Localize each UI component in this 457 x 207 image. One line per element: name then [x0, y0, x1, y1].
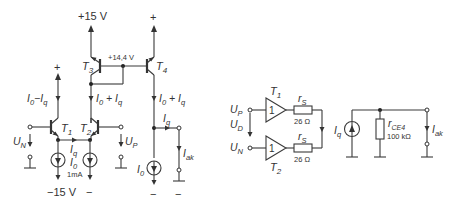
svg-text:100 kΩ: 100 kΩ — [387, 132, 411, 141]
eq-ud-label: UD — [230, 118, 244, 133]
resistor-rs-bottom — [294, 144, 312, 152]
svg-text:T2: T2 — [270, 161, 282, 176]
eq-un-label: UN — [230, 141, 244, 156]
current-i0-plus-iq-label: I0 + Iq — [96, 92, 123, 107]
equivalent-circuit: UP UD UN 1 T1 rS 26 Ω 1 T2 rS 26 Ω — [230, 85, 444, 176]
buffer-t1: 1 T1 — [266, 85, 286, 122]
node-voltage-label: +14,4 V — [108, 53, 134, 62]
t4-supply-plus: + — [150, 11, 156, 23]
un-terminal — [28, 125, 32, 129]
svg-text:rS: rS — [298, 92, 307, 107]
current-iq-out-label: Iq — [163, 112, 171, 127]
resistor-rce4 — [376, 119, 384, 139]
svg-text:26 Ω: 26 Ω — [294, 155, 310, 164]
arrow-up-icon — [88, 25, 94, 32]
current-t4-label: I0 + Iq — [159, 92, 186, 107]
svg-text:−: − — [150, 188, 156, 200]
supply-neg-label: −15 V — [47, 186, 77, 198]
eq-up-label: UP — [230, 103, 243, 118]
svg-text:−: − — [175, 188, 181, 200]
svg-text:T2: T2 — [80, 122, 92, 137]
svg-text:T1: T1 — [61, 122, 72, 137]
transistor-t4: T4 — [147, 57, 168, 75]
current-iak-label: Iak — [183, 147, 195, 162]
buffer-t2: 1 T2 — [266, 136, 286, 176]
svg-text:1: 1 — [269, 105, 275, 116]
svg-text:1: 1 — [269, 143, 275, 154]
circuit-diagram: +15 V T3 +14,4 V I0 + Iq + T4 — [0, 0, 457, 207]
svg-text:T1: T1 — [270, 85, 281, 100]
current-i0-t4-label: I0 — [137, 163, 145, 178]
i0-value: 1mA — [67, 170, 82, 179]
resistor-rs-top — [294, 106, 312, 114]
svg-text:Iq: Iq — [334, 124, 342, 139]
svg-text:+: + — [54, 61, 60, 73]
svg-text:T4: T4 — [156, 60, 168, 75]
svg-text:rS: rS — [298, 130, 307, 145]
t3-label: T3 — [82, 60, 94, 75]
svg-text:−: − — [86, 186, 92, 198]
svg-text:rCE4: rCE4 — [388, 117, 405, 131]
svg-text:26 Ω: 26 Ω — [294, 117, 310, 126]
current-i0-minus-iq-label: I0−Iq — [27, 92, 48, 107]
supply-pos-label: +15 V — [78, 10, 108, 22]
transistor-t2: T2 — [80, 118, 119, 140]
up-terminal — [119, 125, 123, 129]
current-i0-label: I0 — [70, 156, 78, 171]
up-label: UP — [125, 135, 138, 150]
differential-amplifier-circuit: +15 V T3 +14,4 V I0 + Iq + T4 — [13, 10, 195, 200]
un-label: UN — [13, 135, 27, 150]
transistor-t1: T1 — [32, 118, 72, 140]
svg-text:Iak: Iak — [432, 123, 444, 138]
